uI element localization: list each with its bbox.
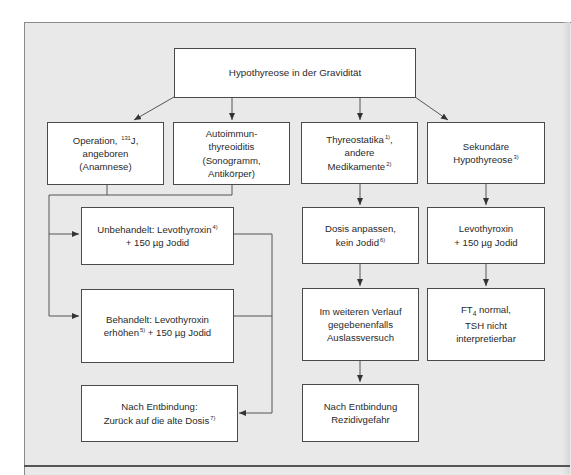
node-thyreostatika-line1: Thyreostatika1), [326, 133, 392, 146]
node-thyreostatika-line2: andere [326, 146, 392, 159]
node-auslassversuch-line3: Auslassversuch [319, 331, 401, 344]
node-autoimmun-line3: (Sonogramm, [202, 154, 260, 167]
superscript: 131 [121, 135, 131, 141]
node-ft4-line2: TSH nicht [456, 319, 516, 332]
text: + 150 µg Jodid [145, 327, 211, 338]
superscript: 4) [212, 224, 217, 230]
node-auslassversuch-line1: Im weiteren Verlauf [319, 305, 401, 318]
node-rezidiv-line2: Rezidivgefahr [324, 413, 398, 426]
node-autoimmun-line4: Antikörper) [202, 167, 260, 180]
node-behandelt-line1: Behandelt: Levothyroxin [104, 313, 211, 326]
text: Thyreostatika [326, 134, 384, 145]
node-autoimmun: Autoimmun- thyreoiditis (Sonogramm, Anti… [173, 122, 290, 185]
page-gutter [562, 22, 570, 474]
node-levothyroxin: Levothyroxin + 150 µg Jodid [427, 207, 545, 264]
node-unbehandelt-line1: Unbehandelt: Levothyroxin4) [97, 223, 217, 236]
text: FT [461, 304, 473, 315]
text: Unbehandelt: Levothyroxin [97, 224, 211, 235]
node-sekundaer-line1: Sekundäre [453, 140, 518, 153]
superscript: 2) [386, 161, 391, 167]
node-unbehandelt: Unbehandelt: Levothyroxin4) + 150 µg Jod… [81, 207, 234, 265]
node-title: Hypothyreose in der Gravidität [174, 48, 416, 98]
node-operation-line2: angeboren [73, 147, 139, 160]
node-auslassversuch: Im weiteren Verlauf gegebenenfalls Ausla… [302, 288, 419, 361]
node-thyreostatika-line3: Medikamente2) [326, 160, 392, 173]
bottom-rule [24, 465, 570, 467]
node-rezidiv: Nach Entbindung Rezidivgefahr [302, 384, 419, 442]
node-levothyroxin-line2: + 150 µg Jodid [454, 236, 517, 249]
superscript: 7) [210, 415, 215, 421]
node-unbehandelt-line2: + 150 µg Jodid [97, 236, 217, 249]
node-nach-entbindung-dosis: Nach Entbindung: Zurück auf die alte Dos… [81, 385, 238, 442]
node-nach-entbindung-dosis-line2: Zurück auf die alte Dosis7) [104, 414, 216, 427]
node-dosis-anpassen-line1: Dosis anpassen, [325, 222, 396, 235]
superscript: 3) [514, 154, 519, 160]
node-nach-entbindung-dosis-line1: Nach Entbindung: [104, 400, 216, 413]
node-rezidiv-line1: Nach Entbindung [324, 400, 398, 413]
node-title-text: Hypothyreose in der Gravidität [229, 66, 361, 80]
text: J, [131, 135, 138, 146]
superscript: 6) [380, 237, 385, 243]
node-dosis-anpassen-line2: kein Jodid6) [325, 236, 396, 249]
node-ft4-line3: interpretierbar [456, 332, 516, 345]
node-thyreostatika: Thyreostatika1), andere Medikamente2) [301, 122, 418, 184]
text: , [390, 134, 393, 145]
node-ft4: FT4 normal, TSH nicht interpretierbar [427, 288, 545, 361]
node-operation: Operation, 131J, angeboren (Anamnese) [47, 122, 164, 185]
text: erhöhen [104, 327, 139, 338]
node-levothyroxin-line1: Levothyroxin [454, 222, 517, 235]
node-behandelt-line2: erhöhen5) + 150 µg Jodid [104, 326, 211, 339]
text: Operation, [73, 135, 120, 146]
node-operation-line3: (Anamnese) [73, 160, 139, 173]
node-dosis-anpassen: Dosis anpassen, kein Jodid6) [302, 207, 419, 264]
node-autoimmun-line2: thyreoiditis [202, 140, 260, 153]
node-behandelt: Behandelt: Levothyroxin erhöhen5) + 150 … [81, 289, 234, 363]
text: Zurück auf die alte Dosis [104, 415, 210, 426]
node-autoimmun-line1: Autoimmun- [202, 127, 260, 140]
node-ft4-line1: FT4 normal, [456, 303, 516, 319]
node-operation-line1: Operation, 131J, [73, 134, 139, 147]
text: kein Jodid [336, 237, 379, 248]
node-auslassversuch-line2: gegebenenfalls [319, 318, 401, 331]
node-sekundaer-line2: Hypothyreose3) [453, 153, 518, 166]
text: Hypothyreose [453, 154, 512, 165]
text: normal, [476, 304, 511, 315]
node-sekundaer: Sekundäre Hypothyreose3) [427, 122, 545, 184]
text: Medikamente [328, 161, 386, 172]
